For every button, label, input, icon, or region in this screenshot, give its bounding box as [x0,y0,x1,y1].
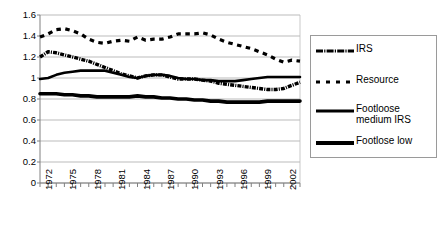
legend-swatch-footlose-low [316,135,354,147]
legend-label-footloose-medium-irs: Footloose medium IRS [356,103,436,125]
chart-legend: IRS Resource Footloose medium IRS [310,35,437,158]
legend-item-footloose-medium-irs[interactable]: Footloose medium IRS [316,103,436,125]
x-axis-tick-label: 1972 [44,169,54,190]
x-axis-tick-label: 1978 [93,169,103,190]
legend-swatch-resource [316,74,354,86]
legend-item-resource[interactable]: Resource [316,74,399,86]
x-axis-tick-label: 2002 [288,169,298,190]
legend-swatch-footloose-medium-irs [316,103,354,115]
legend-label-footlose-low: Footlose low [356,135,412,146]
legend-item-footlose-low[interactable]: Footlose low [316,135,412,147]
legend-label-irs: IRS [356,43,373,54]
x-axis-tick-label: 1981 [117,169,127,190]
legend-swatch-irs [316,43,354,55]
x-axis-tick-label: 1999 [263,169,273,190]
x-axis-tick-label: 1984 [142,169,152,190]
x-axis-tick-label: 1975 [68,169,78,190]
x-axis-tick-label: 1996 [239,169,249,190]
x-axis-tick-label: 1987 [166,169,176,190]
x-axis-tick-label: 1993 [215,169,225,190]
legend-item-irs[interactable]: IRS [316,43,373,55]
x-axis-tick-label: 1990 [190,169,200,190]
legend-label-resource: Resource [356,74,399,85]
line-chart: 1.61.41.210.80.60.40.20 1972197519781981… [0,0,448,230]
